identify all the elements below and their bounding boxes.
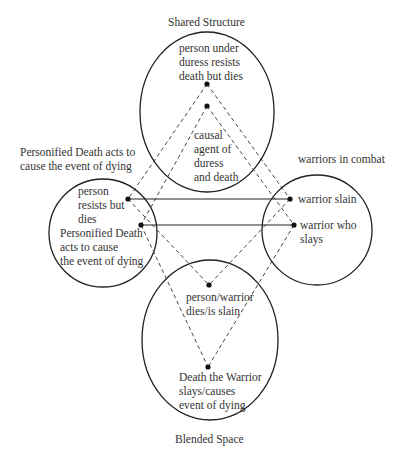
text-line: causal [194, 128, 238, 142]
text-line: slays/causes [179, 384, 262, 398]
text-line: agent of [194, 142, 238, 156]
left-space-title-line1: Personified Death acts to [20, 145, 135, 159]
dot-right-2 [291, 222, 296, 227]
text-line: slays [300, 232, 357, 246]
text-line: acts to cause [60, 240, 143, 254]
right-item-warrior-slain: warrior slain [298, 192, 356, 206]
dot-bottom-1 [206, 282, 211, 287]
text-line: the event of dying [60, 254, 143, 268]
text-line: person/warrior [186, 290, 254, 304]
dot-top-2 [204, 103, 209, 108]
bottom-item-death-the-warrior: Death the Warrior slays/causes event of … [179, 370, 262, 412]
right-space-title: warriors in combat [298, 152, 385, 166]
text-line: resists but [78, 198, 124, 212]
text-line: Death the Warrior [179, 370, 262, 384]
text-line: warrior slain [298, 192, 356, 206]
left-space-title: Personified Death acts to cause the even… [20, 145, 135, 173]
dot-left-1 [125, 196, 130, 201]
dash-right1-bottom1 [209, 199, 290, 285]
left-item-person-resists: person resists but dies [78, 184, 124, 226]
text-line: dies/is slain [186, 304, 254, 318]
left-item-personified-death: Personified Death acts to cause the even… [60, 226, 143, 268]
top-item-causal-agent: causal agent of duress and death [194, 128, 238, 184]
text-line: person [78, 184, 124, 198]
shared-structure-title: Shared Structure [168, 15, 245, 29]
right-item-warrior-who-slays: warrior who slays [300, 218, 357, 246]
text-line: duress [194, 156, 238, 170]
text-line: person under [179, 41, 243, 55]
left-space-title-line2: cause the event of dying [20, 159, 135, 173]
text-line: dies [78, 212, 124, 226]
text-line: death but dies [179, 69, 243, 83]
dot-bottom-2 [205, 364, 210, 369]
blended-space-title: Blended Space [175, 432, 244, 446]
top-item-person-under-duress: person under duress resists death but di… [179, 41, 243, 83]
text-line: and death [194, 170, 238, 184]
text-line: event of dying [179, 398, 262, 412]
text-line: Personified Death [60, 226, 143, 240]
text-line: duress resists [179, 55, 243, 69]
dot-right-1 [287, 196, 292, 201]
bottom-item-person-warrior-dies: person/warrior dies/is slain [186, 290, 254, 318]
text-line: warrior who [300, 218, 357, 232]
